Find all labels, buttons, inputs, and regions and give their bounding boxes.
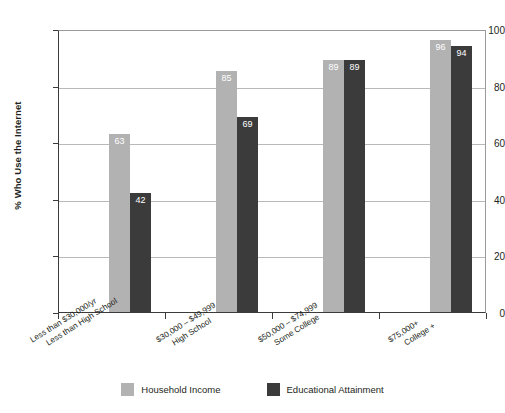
legend-swatch-icon-household-income bbox=[121, 383, 134, 396]
y-tick-mark-40 bbox=[53, 200, 58, 201]
bar-value-label: 89 bbox=[323, 62, 344, 72]
bar-household-income-2: 85 bbox=[216, 71, 237, 312]
bar-educational-attainment-3: 89 bbox=[344, 60, 365, 312]
bar-household-income-1: 63 bbox=[109, 134, 130, 312]
legend-label-educational-attainment: Educational Attainment bbox=[287, 384, 384, 395]
bar-value-label: 94 bbox=[451, 48, 472, 58]
legend-label-household-income: Household Income bbox=[141, 384, 220, 395]
x-tick-mark-2 bbox=[272, 313, 273, 319]
bar-household-income-3: 89 bbox=[323, 60, 344, 312]
x-tick-mark-4 bbox=[486, 313, 487, 319]
y-tick-mark-60 bbox=[53, 143, 58, 144]
y-tick-label-60: 60 bbox=[465, 138, 505, 149]
bar-household-income-4: 96 bbox=[430, 40, 451, 312]
y-tick-label-0: 0 bbox=[465, 308, 505, 319]
chart-legend: Household Income Educational Attainment bbox=[0, 383, 505, 396]
bar-value-label: 69 bbox=[237, 119, 258, 129]
cropped-header-text bbox=[0, 0, 505, 12]
legend-item-educational-attainment: Educational Attainment bbox=[267, 383, 384, 396]
bar-educational-attainment-2: 69 bbox=[237, 117, 258, 312]
bar-value-label: 63 bbox=[109, 136, 130, 146]
y-tick-label-40: 40 bbox=[465, 194, 505, 205]
chart-plot-area: 63 42 85 69 89 89 96 94 bbox=[58, 30, 486, 313]
y-tick-label-100: 100 bbox=[465, 25, 505, 36]
bar-value-label: 96 bbox=[430, 42, 451, 52]
x-category-label-4: $75,000+ College + bbox=[386, 311, 437, 354]
y-tick-label-20: 20 bbox=[465, 251, 505, 262]
bar-educational-attainment-1: 42 bbox=[130, 193, 151, 312]
gridline-80 bbox=[59, 88, 485, 89]
bar-value-label: 42 bbox=[130, 195, 151, 205]
bar-value-label: 85 bbox=[216, 73, 237, 83]
y-tick-mark-20 bbox=[53, 256, 58, 257]
x-tick-mark-1 bbox=[165, 313, 166, 319]
legend-swatch-icon-educational-attainment bbox=[267, 383, 280, 396]
x-tick-mark-3 bbox=[379, 313, 380, 319]
bar-value-label: 89 bbox=[344, 62, 365, 72]
y-tick-mark-100 bbox=[53, 30, 58, 31]
legend-item-household-income: Household Income bbox=[121, 383, 220, 396]
y-tick-label-80: 80 bbox=[465, 81, 505, 92]
y-axis-title: % Who Use the Internet bbox=[12, 56, 23, 256]
y-tick-mark-80 bbox=[53, 87, 58, 88]
